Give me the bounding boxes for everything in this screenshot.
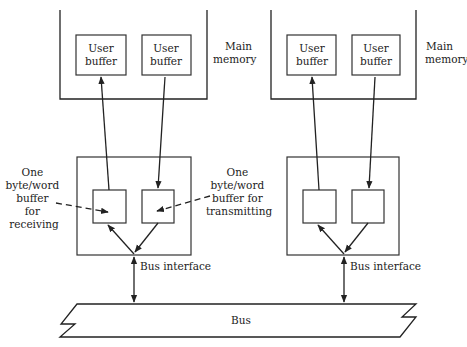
right-node: Main memory User buffer User buffer Bus …	[271, 10, 467, 302]
right-main-memory-label-line2: memory	[425, 53, 467, 65]
right-transmit-byte-buffer	[352, 190, 384, 223]
left-user-buffer-receive-line2: buffer	[85, 55, 118, 67]
bus: Bus	[60, 304, 416, 337]
left-main-memory-label-line2: memory	[213, 53, 256, 65]
bus-buffering-diagram: Main memory User buffer User buffer Bus …	[0, 0, 467, 347]
right-bus-interface-label: Bus interface	[350, 260, 421, 272]
right-main-memory-label-line1: Main	[426, 40, 453, 52]
left-transmit-annotation: One byte/word buffer for transmitting	[206, 166, 273, 217]
right-user-buffer-transmit-line1: User	[363, 42, 389, 54]
left-user-buffer-transmit-line2: buffer	[150, 55, 183, 67]
left-receive-annotation: One byte/word buffer for receiving	[5, 166, 62, 230]
left-user-buffer-receive-line1: User	[88, 42, 114, 54]
left-user-buffer-transmit-line1: User	[153, 42, 179, 54]
left-receive-byte-buffer	[93, 190, 126, 223]
right-user-buffer-receive-line1: User	[299, 42, 325, 54]
left-main-memory-label-line1: Main	[225, 40, 252, 52]
bus-label: Bus	[231, 314, 251, 326]
right-user-buffer-transmit-line2: buffer	[360, 55, 393, 67]
right-user-buffer-receive-line2: buffer	[296, 55, 329, 67]
left-node: Main memory User buffer User buffer Bus …	[5, 10, 272, 302]
left-transmit-byte-buffer	[142, 190, 174, 223]
right-receive-byte-buffer	[303, 190, 336, 223]
left-bus-interface-label: Bus interface	[140, 260, 211, 272]
